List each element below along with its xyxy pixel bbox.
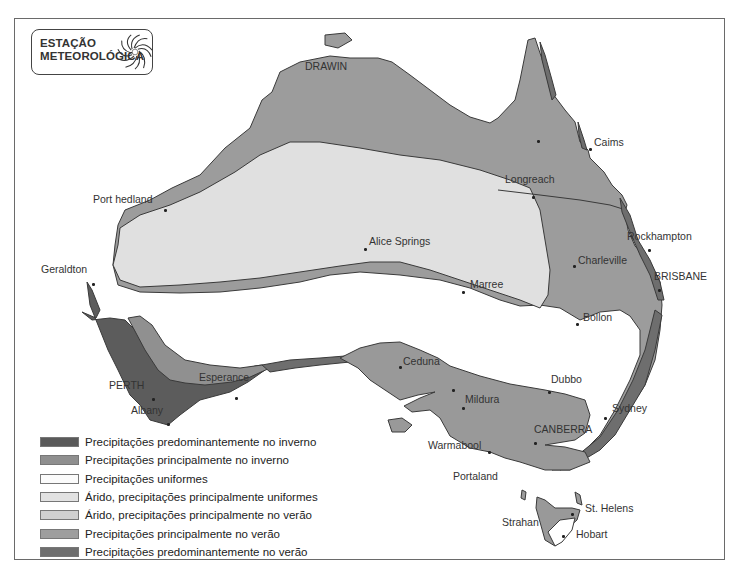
city-label: Port hedland [93, 193, 153, 205]
city-label: Albany [131, 404, 163, 416]
title-box: ESTAÇÃO METEOROLÓGICA [31, 29, 153, 75]
city-dot [488, 451, 491, 454]
legend-label: Precipitações predominantemente no verão [85, 546, 307, 558]
city-label: Marree [470, 278, 503, 290]
legend-swatch [40, 547, 79, 557]
legend-label: Precipitações principalmente no inverno [85, 454, 289, 466]
city-dot [576, 323, 579, 326]
city-dot [235, 397, 238, 400]
city-dot [167, 423, 170, 426]
legend-item: Precipitações uniformes [40, 470, 318, 488]
city-dot [152, 398, 155, 401]
legend-swatch [40, 455, 79, 465]
city-label: Longreach [505, 173, 555, 185]
city-label: Charleville [578, 254, 627, 266]
city-dot [92, 283, 95, 286]
legend-label: Árido, precipitações principalmente unif… [85, 491, 318, 503]
city-dot [604, 417, 607, 420]
legend-label: Precipitações uniformes [85, 473, 208, 485]
legend-swatch [40, 529, 79, 539]
city-label: PERTH [109, 379, 144, 391]
city-label: DRAWIN [305, 60, 347, 72]
city-label: Sydney [612, 402, 647, 414]
city-label: St. Helens [585, 502, 633, 514]
city-dot [562, 535, 565, 538]
legend-item: Precipitações predominantemente no inver… [40, 433, 318, 451]
legend-label: Árido, precipitações principalmente no v… [85, 509, 312, 521]
city-label: Esperance [199, 371, 249, 383]
legend-swatch [40, 474, 79, 484]
city-label: Portaland [453, 470, 498, 482]
legend-item: Precipitações predominantemente no verão [40, 543, 318, 561]
legend-item: Árido, precipitações principalmente unif… [40, 488, 318, 506]
city-label: Ceduna [403, 355, 440, 367]
city-dot [537, 140, 540, 143]
city-dot [573, 265, 576, 268]
city-label: Geraldton [41, 263, 87, 275]
city-label: Hobart [576, 528, 608, 540]
legend-swatch [40, 492, 79, 502]
city-dot [164, 209, 167, 212]
legend: Precipitações predominantemente no inver… [40, 433, 318, 561]
city-dot [462, 407, 465, 410]
swirl-icon [116, 33, 154, 71]
legend-item: Precipitações principalmente no verão [40, 524, 318, 542]
city-label: BRISBANE [654, 270, 707, 282]
legend-item: Árido, precipitações principalmente no v… [40, 506, 318, 524]
legend-swatch [40, 510, 79, 520]
city-label: Strahan [502, 516, 539, 528]
city-dot [548, 391, 551, 394]
city-label: CANBERRA [534, 423, 592, 435]
city-dot [364, 248, 367, 251]
city-label: Dubbo [551, 373, 582, 385]
legend-item: Precipitações principalmente no inverno [40, 451, 318, 469]
city-dot [534, 442, 537, 445]
city-dot [648, 249, 651, 252]
city-label: Bollon [583, 311, 612, 323]
city-label: Rockhampton [627, 230, 692, 242]
legend-swatch [40, 437, 79, 447]
city-dot [399, 366, 402, 369]
city-dot [589, 148, 592, 151]
city-label: Alice Springs [369, 235, 430, 247]
city-dot [571, 513, 574, 516]
legend-label: Precipitações principalmente no verão [85, 528, 280, 540]
city-label: Caims [594, 136, 624, 148]
city-label: Warmabool [428, 439, 481, 451]
city-label: Mildura [465, 393, 499, 405]
legend-label: Precipitações predominantemente no inver… [85, 436, 316, 448]
city-dot [658, 289, 661, 292]
city-dot [452, 389, 455, 392]
city-dot [462, 291, 465, 294]
city-dot [532, 196, 535, 199]
